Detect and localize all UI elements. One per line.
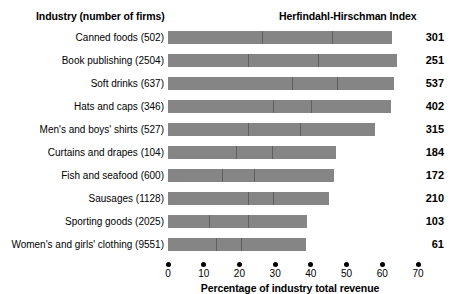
bar-row: Canned foods (502)301: [0, 31, 453, 54]
bar-segment-divider: [248, 215, 249, 228]
hhi-value: 402: [408, 100, 444, 113]
axis-tick-label: 40: [297, 268, 325, 279]
bar-segment-divider: [241, 238, 242, 251]
industry-label: Hats and caps (346): [74, 100, 164, 113]
hhi-value: 184: [408, 146, 444, 159]
revenue-bar: [168, 31, 392, 44]
axis-tick-dot: [344, 262, 349, 267]
bar-row: Curtains and drapes (104)184: [0, 146, 453, 169]
revenue-bar: [168, 215, 307, 228]
industry-label: Sporting goods (2025): [65, 215, 164, 228]
bar-track: [168, 192, 329, 205]
bar-track: [168, 146, 336, 159]
revenue-bar: [168, 54, 397, 67]
hhi-value: 537: [408, 77, 444, 90]
bar-row: Women's and girls' clothing (9551)61: [0, 238, 453, 261]
x-axis-title: Percentage of industry total revenue: [155, 282, 425, 294]
industry-label: Women's and girls' clothing (9551): [11, 238, 164, 251]
axis-tick-dot: [380, 262, 385, 267]
bar-segment-divider: [236, 146, 237, 159]
bar-segment-divider: [318, 54, 319, 67]
industry-column-header: Industry (number of firms): [36, 10, 165, 22]
bar-track: [168, 77, 394, 90]
bar-row: Hats and caps (346)402: [0, 100, 453, 123]
industry-label: Curtains and drapes (104): [48, 146, 164, 159]
bar-segment-divider: [273, 192, 274, 205]
axis-tick-dot: [273, 262, 278, 267]
hhi-value: 301: [408, 31, 444, 44]
bar-segment-divider: [248, 123, 249, 136]
axis-tick-label: 20: [225, 268, 253, 279]
industry-label: Book publishing (2504): [62, 54, 164, 67]
x-axis: Percentage of industry total revenue 010…: [0, 262, 453, 293]
bar-track: [168, 54, 397, 67]
bar-track: [168, 215, 307, 228]
bar-segment-divider: [273, 100, 274, 113]
revenue-bar: [168, 169, 334, 182]
bar-rows: Canned foods (502)301Book publishing (25…: [0, 31, 453, 261]
industry-label: Sausages (1128): [89, 192, 164, 205]
bar-row: Book publishing (2504)251: [0, 54, 453, 77]
bar-track: [168, 238, 306, 251]
bar-row: Soft drinks (637)537: [0, 77, 453, 100]
bar-track: [168, 100, 391, 113]
bar-row: Sausages (1128)210: [0, 192, 453, 215]
revenue-bar: [168, 100, 391, 113]
axis-tick-label: 70: [404, 268, 432, 279]
axis-tick-dot: [166, 262, 171, 267]
axis-tick-label: 10: [190, 268, 218, 279]
bar-segment-divider: [272, 146, 273, 159]
bar-segment-divider: [337, 77, 338, 90]
axis-tick-label: 50: [333, 268, 361, 279]
axis-tick-dot: [308, 262, 313, 267]
bar-track: [168, 31, 392, 44]
axis-tick-label: 30: [261, 268, 289, 279]
bar-segment-divider: [292, 77, 293, 90]
bar-row: Fish and seafood (600)172: [0, 169, 453, 192]
industry-label: Men's and boys' shirts (527): [40, 123, 164, 136]
bar-row: Sporting goods (2025)103: [0, 215, 453, 238]
hhi-value: 61: [408, 238, 444, 251]
bar-segment-divider: [300, 123, 301, 136]
revenue-bar: [168, 192, 329, 205]
bar-segment-divider: [222, 169, 223, 182]
industry-label: Canned foods (502): [76, 31, 164, 44]
industry-label: Fish and seafood (600): [61, 169, 164, 182]
hhi-column-header: Herfindahl-Hirschman Index: [279, 10, 416, 22]
bar-segment-divider: [248, 192, 249, 205]
bar-track: [168, 169, 334, 182]
hhi-value: 103: [408, 215, 444, 228]
bar-segment-divider: [254, 169, 255, 182]
bar-segment-divider: [332, 31, 333, 44]
revenue-bar: [168, 238, 306, 251]
hhi-value: 251: [408, 54, 444, 67]
bar-track: [168, 123, 375, 136]
bar-segment-divider: [262, 31, 263, 44]
axis-tick-label: 60: [368, 268, 396, 279]
axis-tick-dot: [201, 262, 206, 267]
bar-row: Men's and boys' shirts (527)315: [0, 123, 453, 146]
axis-tick-label: 0: [154, 268, 182, 279]
bar-segment-divider: [209, 215, 210, 228]
chart-header: Industry (number of firms) Herfindahl-Hi…: [0, 10, 453, 26]
bar-segment-divider: [216, 238, 217, 251]
revenue-bar: [168, 77, 394, 90]
bar-segment-divider: [311, 100, 312, 113]
axis-tick-dot: [237, 262, 242, 267]
hhi-value: 210: [408, 192, 444, 205]
industry-label: Soft drinks (637): [91, 77, 164, 90]
bar-segment-divider: [248, 54, 249, 67]
hhi-value: 172: [408, 169, 444, 182]
revenue-bar: [168, 146, 336, 159]
revenue-bar: [168, 123, 375, 136]
hhi-value: 315: [408, 123, 444, 136]
axis-tick-dot: [416, 262, 421, 267]
